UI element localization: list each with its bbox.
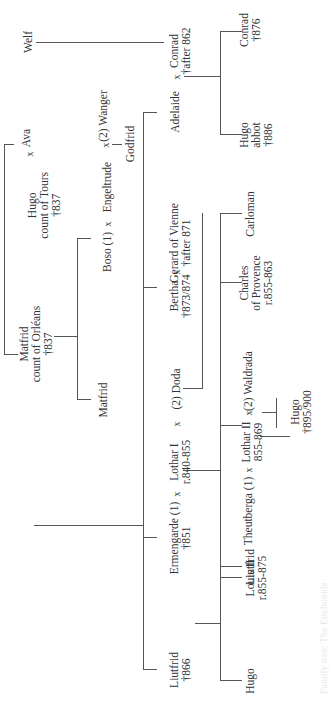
person-hugo-jr: Hugo <box>244 668 256 694</box>
person-lothar-ii: Lothar II 855-869 <box>240 421 264 462</box>
person-conrad-jr: Conrad †876 <box>238 13 262 47</box>
hugo-children-bar <box>143 112 144 670</box>
person-hugo-abbot: Hugo abbot †886 <box>238 122 274 148</box>
marriage-symbol: x <box>24 152 35 157</box>
marriage-symbol: x <box>171 492 182 497</box>
person-bertha: Bertha †873/874 <box>168 274 192 317</box>
marriage-symbol: x <box>243 468 254 473</box>
to-boso <box>77 238 91 239</box>
genealogy-diagram: Welf Conrad †after 862 x Adelaide Conrad… <box>0 0 334 724</box>
person-engeltrude: Engeltrude <box>101 162 113 212</box>
person-wanger: (2) Wanger <box>97 90 109 142</box>
person-hugo-tours: Hugo count of Tours †837 <box>26 172 62 239</box>
to-liutfrid-jr <box>220 566 242 567</box>
to-ermengarde <box>143 537 157 538</box>
marriage-symbol: x <box>102 222 113 227</box>
person-matfrid-orleans: Matfrid count of Orléans †837 <box>18 306 54 383</box>
person-theutberga: Theutberga (1) <box>242 477 254 545</box>
marriage-symbol: x <box>100 143 111 148</box>
hugo-children-stem <box>34 525 144 526</box>
lothar1-children-bar <box>220 213 221 578</box>
person-lothar-i: Lothar I r.840-855 <box>168 440 192 484</box>
to-carloman <box>220 213 242 214</box>
marriage-symbol: x <box>171 422 182 427</box>
matfrid-children-bar <box>77 238 78 400</box>
person-welf: Welf <box>22 31 34 53</box>
person-conrad: Conrad †after 862 <box>168 28 192 75</box>
matfrid-link-end <box>4 354 18 355</box>
conrad-children-bar <box>220 31 221 135</box>
doda-stem <box>183 388 202 389</box>
person-liutfrid: Liutfrid †866 <box>168 652 192 688</box>
to-liutfrid <box>143 669 157 670</box>
to-lothar2 <box>220 425 242 426</box>
welf-line <box>36 42 164 43</box>
to-louis2 <box>220 577 242 578</box>
person-boso: Boso (1) <box>101 232 113 272</box>
marriage-symbol: x <box>243 411 254 416</box>
to-bertha <box>143 287 157 288</box>
hugo-895-stem <box>262 412 276 413</box>
person-liutfrid-jr: Liutfrid <box>244 549 256 585</box>
to-adelaide <box>143 112 157 113</box>
person-waldrada: (2) Waldrada <box>242 351 254 411</box>
liutfrid-children-bar <box>220 566 221 681</box>
diagram-caption: Family tree: The Etichonids <box>318 582 329 694</box>
person-doda: (2) Doda <box>170 368 182 409</box>
hugo-895-bar <box>276 398 277 428</box>
person-godfrid: Godfrid <box>124 126 136 162</box>
person-matfrid: Matfrid <box>97 382 109 417</box>
person-adelaide: Adelaide <box>169 91 181 133</box>
ava-link-end <box>4 144 14 145</box>
person-ava: Ava <box>20 129 32 147</box>
godfrid-link <box>112 144 122 145</box>
marriage-symbol: x <box>171 75 182 80</box>
ava-matfrid-link <box>4 145 5 355</box>
conrad-children-stem <box>184 76 221 77</box>
to-hugo-jr <box>220 680 242 681</box>
person-carloman: Carloman <box>244 191 256 236</box>
matfrid-children-stem <box>54 336 77 337</box>
liutfrid-children-stem <box>195 623 220 624</box>
person-hugo-895: Hugo †895/900 <box>289 390 313 433</box>
lothar2-child-stem <box>260 436 290 437</box>
person-charles-provence: Charles of Provence r.855-863 <box>238 255 274 310</box>
to-matfrid <box>77 399 91 400</box>
person-ermengarde: Ermengarde (1) †851 <box>168 502 192 574</box>
doda-link <box>202 213 203 389</box>
